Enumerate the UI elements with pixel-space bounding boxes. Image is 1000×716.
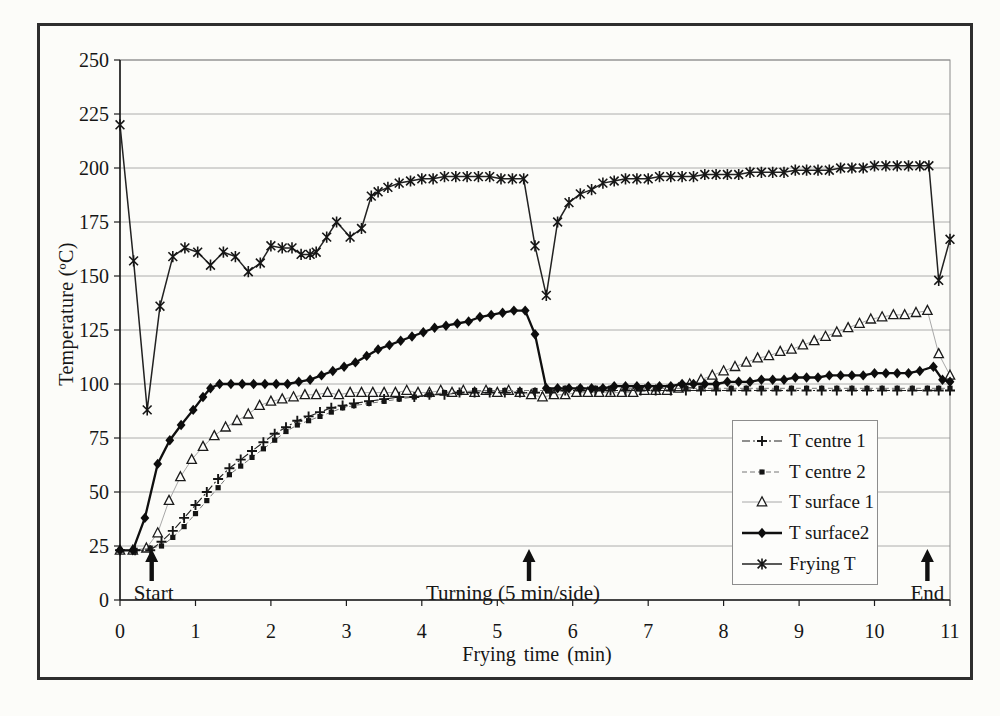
legend-item-frying-t: Frying T — [741, 551, 875, 577]
legend-label: T surface2 — [789, 522, 869, 544]
legend-marker-plus — [741, 433, 783, 449]
legend-item-t-centre-2: T centre 2 — [741, 459, 875, 485]
legend-marker-triangle — [741, 494, 783, 510]
legend-marker-asterisk — [741, 556, 783, 572]
legend-marker-diamond — [741, 525, 783, 541]
legend-label: Frying T — [789, 553, 856, 575]
y-axis-title: Temperature (ºC) — [55, 242, 78, 385]
x-axis-title: Frying time (min) — [462, 643, 611, 666]
legend-item-t-surface-1: T surface 1 — [741, 489, 875, 515]
legend-item-t-surface2: T surface2 — [741, 520, 875, 546]
legend-label: T surface 1 — [789, 491, 874, 513]
legend-label: T centre 1 — [789, 430, 866, 452]
legend: T centre 1T centre 2T surface 1T surface… — [732, 420, 878, 585]
legend-label: T centre 2 — [789, 461, 866, 483]
legend-marker-square — [741, 464, 783, 480]
legend-item-t-centre-1: T centre 1 — [741, 428, 875, 454]
figure-page: 0255075100125150175200225250012345678910… — [0, 0, 1000, 716]
